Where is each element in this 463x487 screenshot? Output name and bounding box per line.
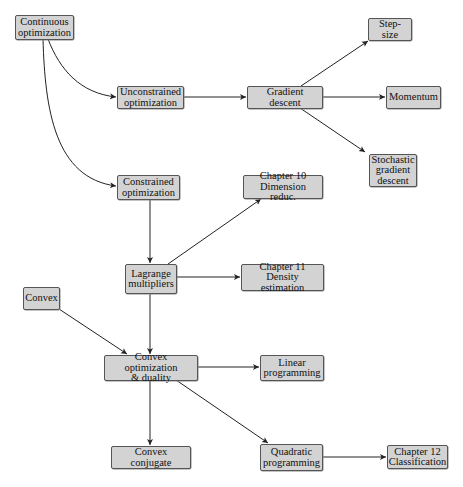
- node-momentum: Momentum: [386, 86, 441, 109]
- edge-convex-convexopt: [59, 309, 127, 354]
- edge-lagrange-ch10: [168, 199, 261, 264]
- edges-layer: [0, 0, 463, 487]
- node-chapter-12: Chapter 12 Classification: [387, 445, 448, 469]
- edge-gradient-stepsize: [301, 41, 368, 86]
- node-convex: Convex: [23, 287, 60, 310]
- concept-map: Continuous optimization Unconstrained op…: [0, 0, 463, 487]
- edge-continuous-unconstrained: [48, 39, 116, 97]
- edge-continuous-constrained: [43, 39, 116, 186]
- edge-gradient-stochastic: [300, 108, 365, 152]
- node-convex-conjugate: Convex conjugate: [111, 446, 191, 469]
- node-convex-optimization-duality: Convex optimization & duality: [104, 355, 198, 381]
- edge-convexopt-quadratic: [176, 380, 268, 443]
- node-gradient-descent: Gradient descent: [247, 86, 323, 109]
- node-continuous-optimization: Continuous optimization: [15, 15, 74, 40]
- node-quadratic-programming: Quadratic programming: [260, 444, 323, 471]
- node-lagrange-multipliers: Lagrange multipliers: [125, 264, 177, 294]
- node-chapter-10: Chapter 10 Dimension reduc.: [243, 175, 323, 199]
- node-stochastic-gradient-descent: Stochastic gradient descent: [369, 154, 417, 187]
- node-unconstrained-optimization: Unconstrained optimization: [117, 86, 184, 109]
- node-step-size: Step-size: [368, 18, 412, 41]
- node-linear-programming: Linear programming: [260, 355, 324, 381]
- node-chapter-11: Chapter 11 Density estimation: [241, 264, 324, 291]
- node-constrained-optimization: Constrained optimization: [117, 175, 180, 200]
